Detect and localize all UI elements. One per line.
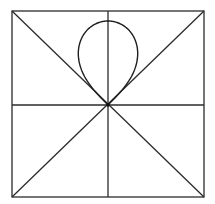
diagram-canvas — [0, 0, 215, 204]
center-point — [106, 103, 110, 107]
